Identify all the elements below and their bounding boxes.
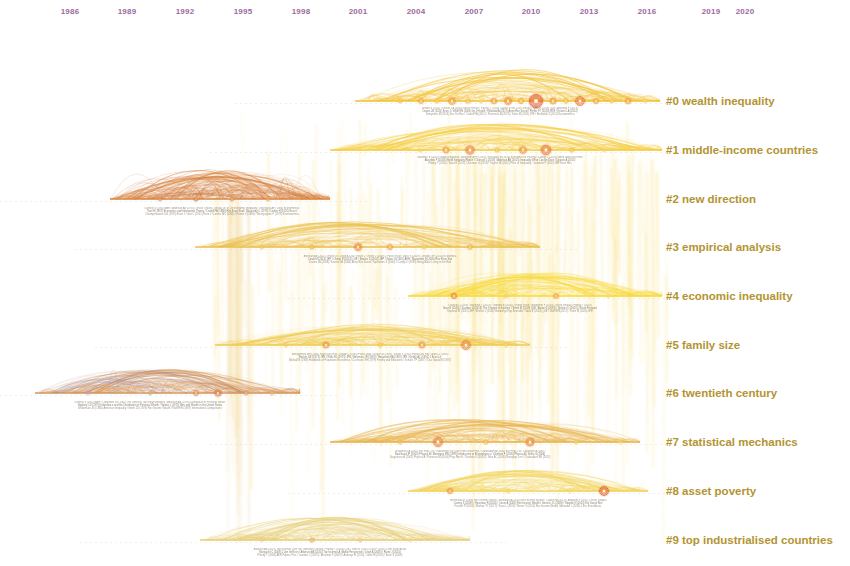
citation-node[interactable] [598, 485, 610, 497]
year-tick-1995: 1995 [234, 7, 253, 16]
reference-labels-c5: Montgomery MR (2000) Popul Dev Rev / Kno… [289, 353, 451, 362]
cluster-baseline-9 [80, 542, 510, 543]
cluster-baseline-1 [210, 152, 702, 153]
reference-label-line: Williamson JG (1980) American Inequality… [74, 407, 225, 410]
year-tick-2007: 2007 [465, 7, 484, 16]
citation-node[interactable] [432, 436, 444, 448]
citespace-timeline-canvas: Anand S (2011) / Keister LA (2000) Socia… [0, 0, 850, 566]
reference-label-line: Champernowne DG (1953) Econ J / Gini C (… [144, 213, 299, 216]
year-tick-2019: 2019 [702, 7, 721, 16]
cluster-label-9[interactable]: #9 top industrialised countries [666, 534, 833, 546]
cluster-baseline-6 [0, 395, 340, 396]
reference-label-line: Piketty T (2014) / Saez E (2013) / Zucma… [417, 162, 583, 165]
citation-node[interactable] [441, 145, 450, 154]
reference-labels-c7: Dragulescu A (2001) Eur Phys J B / Yakov… [390, 450, 551, 459]
reference-label-line: Dragulescu A (2001) Physica A / Patriarc… [390, 456, 551, 459]
cluster-label-0[interactable]: #0 wealth inequality [666, 95, 775, 107]
citation-node[interactable] [213, 388, 223, 398]
cluster-label-1[interactable]: #1 middle-income countries [666, 144, 818, 156]
reference-label-line: Piketty T (2006) AER Papers Proc / Landa… [254, 554, 407, 557]
year-tick-2013: 2013 [580, 7, 599, 16]
reference-labels-c0: Anand S (2011) / Keister LA (2000) Socia… [422, 107, 578, 116]
citation-node[interactable] [417, 340, 426, 349]
year-tick-1998: 1998 [292, 7, 311, 16]
reference-label-line: Kopczuk W (2015) JEP / Bricker J (2016) … [443, 310, 597, 313]
year-tick-1986: 1986 [61, 7, 80, 16]
year-tick-2004: 2004 [407, 7, 426, 16]
cluster-label-5[interactable]: #5 family size [666, 339, 740, 351]
year-tick-1992: 1992 [176, 7, 195, 16]
citation-node[interactable] [518, 145, 528, 155]
reference-label-line: Fessler P (2016) / Mathae TY (2017) / Ka… [450, 505, 607, 508]
citation-node[interactable] [460, 339, 472, 351]
year-tick-2016: 2016 [638, 7, 657, 16]
network-visualization [0, 0, 850, 566]
citation-node[interactable] [353, 242, 363, 252]
year-axis: 1986198919921995199820012004200720102013… [0, 0, 850, 28]
citation-node[interactable] [540, 144, 553, 157]
cluster-baseline-2 [0, 201, 370, 202]
reference-labels-c9: Atkinson AB (2007) Top Incomes Over the … [254, 548, 407, 557]
citation-node[interactable] [503, 96, 513, 106]
cluster-baseline-0 [235, 103, 700, 104]
cluster-label-8[interactable]: #8 asset poverty [666, 485, 756, 497]
cluster-baseline-8 [288, 493, 688, 494]
cluster-baseline-7 [210, 444, 680, 445]
citation-node[interactable] [464, 144, 476, 156]
citation-node[interactable] [574, 95, 586, 107]
citation-node[interactable] [447, 96, 457, 106]
reference-labels-c1: Milanovic B (2016) Global Inequality / B… [417, 156, 583, 165]
cluster-label-2[interactable]: #2 new direction [666, 193, 756, 205]
citation-node[interactable] [548, 96, 557, 105]
reference-labels-c3: Atkinson AB (2011) J Econ Lit / Leigh A … [304, 255, 457, 264]
reference-label-line: Birdsall N (1988) Handbook of Population… [289, 359, 451, 362]
citation-node[interactable] [524, 436, 535, 447]
year-tick-1989: 1989 [118, 7, 137, 16]
year-tick-2020: 2020 [736, 7, 755, 16]
year-tick-2010: 2010 [522, 7, 541, 16]
cluster-label-6[interactable]: #6 twentieth century [666, 387, 777, 399]
reference-labels-c4: Chancel L (2019) / Blanchet T (2019) / G… [443, 304, 597, 313]
citation-node[interactable] [321, 340, 330, 349]
citation-node[interactable] [490, 97, 499, 106]
reference-labels-c8: Sierminska E (2006) Rev Income Wealth / … [450, 499, 607, 508]
citation-node[interactable] [624, 97, 633, 106]
cluster-label-7[interactable]: #7 statistical mechanics [666, 436, 798, 448]
cluster-label-4[interactable]: #4 economic inequality [666, 290, 793, 302]
cluster-label-3[interactable]: #3 empirical analysis [666, 241, 781, 253]
cluster-baseline-3 [75, 249, 580, 250]
reference-labels-c6: Kuznets S (1955) AER / Lampman RJ (1962)… [74, 401, 225, 410]
cluster-baseline-4 [288, 298, 702, 299]
reference-labels-c2: Kuznets S (1955) AER / Atkinson AB (1970… [144, 207, 299, 216]
reference-label-line: Semyonov M (2013) Soc Sci Res / Cowell F… [422, 113, 578, 116]
reference-label-line: Davies JB (2008) / Keister LA (2000) Ann… [304, 261, 457, 264]
year-tick-2001: 2001 [349, 7, 368, 16]
cluster-baseline-5 [95, 347, 570, 348]
